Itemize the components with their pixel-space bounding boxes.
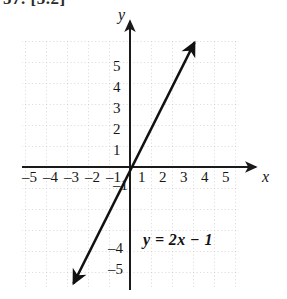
x-tick-label: 3 — [180, 170, 188, 185]
x-axis-label: x — [262, 168, 269, 186]
y-axis-label: y — [118, 6, 125, 24]
x-tick-label: 4 — [201, 170, 209, 185]
x-tick-label: –4 — [43, 170, 58, 185]
x-tick-label: –3 — [64, 170, 79, 185]
x-tick-label: 1 — [138, 170, 146, 185]
graph-svg — [0, 0, 287, 299]
y-tick-label: –1 — [113, 178, 128, 193]
y-tick-label: –4 — [108, 241, 123, 256]
y-tick-label: –5 — [108, 262, 123, 277]
coordinate-graph-figure: y x –5 –4 –3 –2 –1 1 2 3 4 5 5 4 3 2 1 –… — [0, 0, 287, 299]
y-tick-label: 1 — [113, 143, 121, 158]
x-tick-label: –5 — [22, 170, 37, 185]
y-tick-label: 2 — [113, 122, 121, 137]
y-tick-label: 5 — [113, 59, 121, 74]
y-tick-label: 3 — [113, 101, 121, 116]
equation-annotation: y = 2x − 1 — [143, 231, 213, 249]
x-tick-label: 2 — [159, 170, 167, 185]
y-tick-label: 4 — [113, 80, 121, 95]
x-tick-label: 5 — [222, 170, 230, 185]
x-tick-label: –2 — [85, 170, 100, 185]
